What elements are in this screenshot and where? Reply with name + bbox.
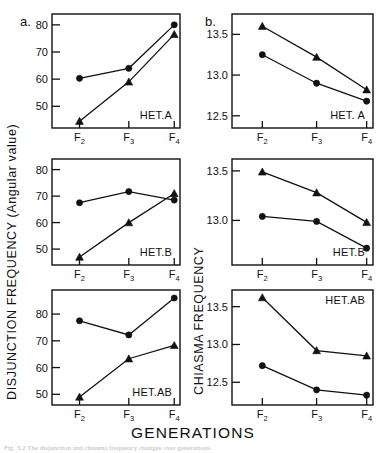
y-tick-label-a3-3: 80 xyxy=(36,308,48,320)
y-tick-label-a1-1: 60 xyxy=(36,73,48,85)
x-tick-label-b2-2: F4 xyxy=(361,268,372,283)
x-tick-label-a3-0: F2 xyxy=(74,408,85,423)
y-tick-label-a2-3: 80 xyxy=(36,164,48,176)
y-tick-label-b2-2: 13.5 xyxy=(207,165,228,177)
y-tick-label-b2-1: 13.0 xyxy=(207,214,228,226)
plot-frame-b3 xyxy=(232,290,373,405)
series-marker-a3-circle-0 xyxy=(76,318,82,324)
x-tick-label-a2-2: F4 xyxy=(169,268,180,283)
series-marker-a2-triangle-2 xyxy=(170,190,178,197)
y-tick-label-b3-0: 12.5 xyxy=(207,376,228,388)
series-marker-a2-triangle-1 xyxy=(125,219,133,226)
x-tick-label-b1-1: F3 xyxy=(311,131,322,146)
y-tick-label-b1-0: 12.5 xyxy=(207,110,228,122)
figure-container: 50607080F2F3F4HET.A12.513.013.5F2F3F4HET… xyxy=(0,0,387,453)
y-tick-label-b3-2: 13.5 xyxy=(207,301,228,313)
series-marker-b2-circle-0 xyxy=(259,213,265,219)
panel-title-b1: HET. A xyxy=(330,109,365,121)
series-marker-a2-circle-2 xyxy=(171,197,177,203)
x-tick-label-a1-2: F4 xyxy=(169,131,180,146)
series-line-a3-circle xyxy=(80,298,175,335)
y-tick-label-a3-0: 50 xyxy=(36,388,48,400)
series-marker-a2-circle-1 xyxy=(126,188,132,194)
panel-title-a2: HET.B xyxy=(140,246,172,258)
y-tick-label-a1-3: 80 xyxy=(36,19,48,31)
y-tick-label-a3-2: 70 xyxy=(36,335,48,347)
series-marker-b3-triangle-0 xyxy=(258,294,266,301)
x-tick-label-a3-1: F3 xyxy=(123,408,134,423)
x-tick-label-a1-0: F2 xyxy=(74,131,85,146)
series-marker-b3-circle-1 xyxy=(314,387,320,393)
y-tick-label-b1-2: 13.5 xyxy=(207,28,228,40)
x-tick-label-a3-2: F4 xyxy=(169,408,180,423)
series-marker-b3-circle-2 xyxy=(364,392,370,398)
y-tick-label-a2-1: 60 xyxy=(36,217,48,229)
series-marker-a3-circle-1 xyxy=(126,332,132,338)
panel-title-a1: HET.A xyxy=(140,109,173,121)
series-marker-b1-circle-0 xyxy=(259,52,265,58)
x-tick-label-a1-1: F3 xyxy=(123,131,134,146)
y-tick-label-a1-0: 50 xyxy=(36,100,48,112)
panel-title-b3: HET.AB xyxy=(325,294,365,306)
x-tick-label-b1-2: F4 xyxy=(361,131,372,146)
y-tick-label-a2-2: 70 xyxy=(36,190,48,202)
x-tick-label-b3-1: F3 xyxy=(311,408,322,423)
figure-svg: 50607080F2F3F4HET.A12.513.013.5F2F3F4HET… xyxy=(0,0,387,453)
series-marker-b1-circle-2 xyxy=(364,98,370,104)
series-line-b2-triangle xyxy=(262,172,366,223)
series-marker-a1-circle-1 xyxy=(126,65,132,71)
panel-letter-b: b. xyxy=(205,14,216,29)
y-tick-label-a3-1: 60 xyxy=(36,362,48,374)
x-axis-title: GENERATIONS xyxy=(131,424,255,441)
y-tick-label-a1-2: 70 xyxy=(36,46,48,58)
panel-title-a3: HET.AB xyxy=(132,386,172,398)
series-marker-b2-triangle-0 xyxy=(258,168,266,175)
left-axis-title: DISJUNCTION FREQUENCY (Angular value) xyxy=(5,124,19,400)
series-line-b3-triangle xyxy=(262,298,366,356)
x-tick-label-b3-0: F2 xyxy=(257,408,268,423)
series-line-b1-circle xyxy=(262,55,366,101)
series-marker-b2-circle-1 xyxy=(314,218,320,224)
series-marker-a3-triangle-2 xyxy=(170,341,178,348)
series-marker-a1-circle-2 xyxy=(171,22,177,28)
series-marker-a3-circle-2 xyxy=(171,295,177,301)
series-marker-b3-circle-0 xyxy=(259,363,265,369)
series-marker-a1-circle-0 xyxy=(76,75,82,81)
y-tick-label-b1-1: 13.0 xyxy=(207,69,228,81)
x-tick-label-b1-0: F2 xyxy=(257,131,268,146)
panel-title-b2: HET.B xyxy=(333,246,365,258)
series-marker-a2-triangle-0 xyxy=(76,253,84,260)
series-marker-b2-triangle-2 xyxy=(363,219,371,226)
series-marker-b1-triangle-2 xyxy=(363,86,371,93)
panel-letter-a: a. xyxy=(20,14,31,29)
series-marker-b1-triangle-0 xyxy=(258,22,266,29)
series-marker-b1-triangle-1 xyxy=(313,53,321,60)
y-tick-label-b3-1: 13.0 xyxy=(207,338,228,350)
y-tick-label-a2-0: 50 xyxy=(36,243,48,255)
series-marker-b1-circle-1 xyxy=(314,80,320,86)
x-tick-label-b2-0: F2 xyxy=(257,268,268,283)
series-marker-a1-triangle-2 xyxy=(170,30,178,37)
right-axis-title: CHIASMA FREQUENCY xyxy=(192,247,206,395)
x-tick-label-a2-0: F2 xyxy=(74,268,85,283)
x-tick-label-b3-2: F4 xyxy=(361,408,372,423)
x-tick-label-a2-1: F3 xyxy=(123,268,134,283)
series-marker-a2-circle-0 xyxy=(76,200,82,206)
figure-caption: Fig. 3.2 The disjunction and chiasma fre… xyxy=(4,444,384,452)
x-tick-label-b2-1: F3 xyxy=(311,268,322,283)
